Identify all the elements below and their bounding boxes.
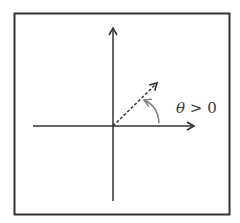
angle-arc [144,100,159,123]
angle-relation: > 0 [185,99,217,117]
theta-symbol: θ [176,99,185,117]
angle-label: θ > 0 [176,99,217,117]
angle-diagram: θ > 0 [0,0,240,223]
